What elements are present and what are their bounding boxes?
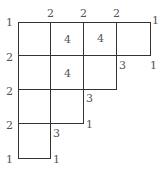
number-label: 4 (64, 34, 71, 45)
number-label: 2 (6, 120, 13, 131)
number-label: 1 (150, 60, 157, 71)
number-label: 2 (47, 8, 54, 19)
young-diagram: 122214423142321311 (0, 0, 162, 173)
grid-cell (83, 55, 117, 90)
number-label: 4 (97, 33, 104, 44)
number-label: 1 (6, 154, 13, 165)
number-label: 1 (86, 119, 93, 130)
grid-cell (18, 123, 51, 159)
number-label: 1 (152, 15, 159, 26)
number-label: 2 (6, 52, 13, 63)
number-label: 2 (80, 8, 87, 19)
number-label: 2 (113, 8, 120, 19)
number-label: 1 (53, 154, 60, 165)
grid-cell (50, 89, 84, 124)
number-label: 2 (6, 86, 13, 97)
number-label: 4 (64, 68, 71, 79)
number-label: 1 (6, 17, 13, 28)
grid-cell (18, 55, 51, 90)
grid-cell (116, 22, 151, 56)
grid-cell (18, 89, 51, 124)
grid-cell (18, 22, 51, 56)
number-label: 3 (119, 60, 126, 71)
number-label: 3 (53, 128, 60, 139)
number-label: 3 (86, 93, 93, 104)
